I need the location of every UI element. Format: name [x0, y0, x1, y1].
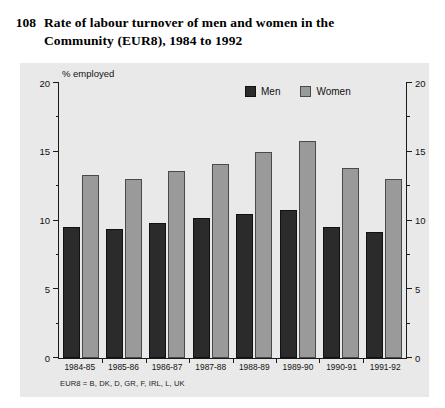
bar-group	[189, 83, 232, 358]
bar-group	[146, 83, 189, 358]
bar-men	[193, 218, 210, 358]
bar-men	[63, 227, 80, 358]
bar-men	[236, 214, 253, 358]
bar-men	[106, 229, 123, 358]
y-tick-label-right: 10	[415, 216, 426, 226]
bar-groups	[59, 83, 406, 358]
y-tick-right	[406, 220, 412, 221]
chart-footnote: EUR8 = B, DK, D, GR, F, IRL, L, UK	[60, 379, 185, 388]
y-tick-label-left: 0	[45, 354, 50, 364]
bar-women	[125, 179, 142, 358]
bar-group	[59, 83, 102, 358]
bar-men	[366, 232, 383, 359]
bar-men	[149, 223, 166, 358]
x-axis-label: 1986-87	[145, 362, 189, 372]
y-tick-label-left: 15	[39, 147, 50, 157]
bar-women	[385, 179, 402, 358]
bar-men	[280, 210, 297, 359]
y-minor-tick-right	[406, 185, 410, 186]
y-minor-tick-right	[406, 323, 410, 324]
bar-women	[299, 141, 316, 358]
bar-men	[323, 227, 340, 358]
y-tick-right	[406, 357, 412, 358]
y-axis-label: % employed	[62, 68, 114, 79]
bar-group	[276, 83, 319, 358]
y-tick-label-right: 20	[415, 79, 426, 89]
x-axis-labels: 1984-851985-861986-871987-881988-891989-…	[58, 362, 407, 372]
bar-group	[363, 83, 406, 358]
y-tick-label-right: 0	[415, 354, 420, 364]
bar-group	[319, 83, 362, 358]
y-tick-label-right: 15	[415, 147, 426, 157]
x-axis-label: 1988-89	[233, 362, 277, 372]
bar-women	[168, 171, 185, 358]
bar-group	[233, 83, 276, 358]
x-axis-label: 1985-86	[102, 362, 146, 372]
y-tick-right	[406, 288, 412, 289]
figure-number: 108	[0, 14, 44, 32]
bar-women	[82, 175, 99, 358]
x-axis-label: 1987-88	[189, 362, 233, 372]
x-axis-label: 1989-90	[276, 362, 320, 372]
y-tick-right	[406, 151, 412, 152]
plot-area: 05101520 05101520	[58, 83, 407, 359]
x-axis-label: 1991-92	[363, 362, 407, 372]
x-axis-label: 1990-91	[320, 362, 364, 372]
chart-panel: % employed Men Women 05101520 05101520 1…	[20, 63, 429, 397]
y-minor-tick-right	[406, 116, 410, 117]
y-tick-label-left: 5	[45, 285, 50, 295]
figure-header: 108 Rate of labour turnover of men and w…	[0, 14, 445, 50]
y-tick-label-left: 20	[39, 79, 50, 89]
y-tick-right	[406, 82, 412, 83]
y-tick-label-right: 5	[415, 285, 420, 295]
y-tick-label-left: 10	[39, 216, 50, 226]
bar-women	[342, 168, 359, 358]
bar-women	[212, 164, 229, 358]
bar-group	[102, 83, 145, 358]
figure-page: 108 Rate of labour turnover of men and w…	[0, 0, 445, 408]
x-axis-label: 1984-85	[58, 362, 102, 372]
bar-women	[255, 152, 272, 358]
y-minor-tick-right	[406, 254, 410, 255]
page-title: Rate of labour turnover of men and women…	[44, 14, 404, 50]
